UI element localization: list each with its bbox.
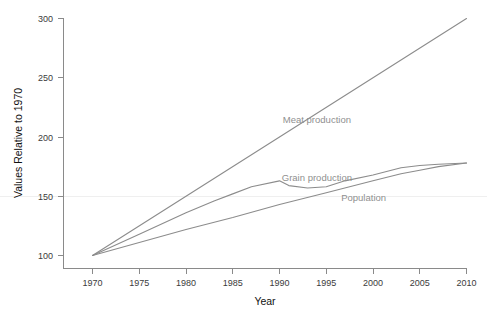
x-axis-title: Year <box>254 295 276 307</box>
line-chart: 300 250 200 150 100 1970 1975 1980 1985 … <box>0 0 487 315</box>
x-tick-label-1975: 1975 <box>129 278 149 288</box>
x-tick-label-2000: 2000 <box>363 278 383 288</box>
x-tick-label-1995: 1995 <box>316 278 336 288</box>
y-tick-label-100: 100 <box>38 251 53 261</box>
y-axis-title: Values Relative to 1970 <box>12 88 24 198</box>
x-tick-label-2010: 2010 <box>456 278 476 288</box>
series-label-population: Population <box>341 192 386 203</box>
x-tick-label-1985: 1985 <box>223 278 243 288</box>
series-label-grain-production: Grain production <box>282 172 352 183</box>
x-tick-label-2005: 2005 <box>410 278 430 288</box>
y-tick-label-150: 150 <box>38 192 53 202</box>
y-tick-label-250: 250 <box>38 73 53 83</box>
x-tick-label-1990: 1990 <box>269 278 289 288</box>
y-tick-label-300: 300 <box>38 14 53 24</box>
y-tick-label-200: 200 <box>38 133 53 143</box>
x-tick-label-1970: 1970 <box>82 278 102 288</box>
series-label-meat-production: Meat production <box>283 114 351 125</box>
x-tick-label-1980: 1980 <box>176 278 196 288</box>
chart-container: 300 250 200 150 100 1970 1975 1980 1985 … <box>0 0 487 315</box>
chart-background <box>0 0 487 315</box>
